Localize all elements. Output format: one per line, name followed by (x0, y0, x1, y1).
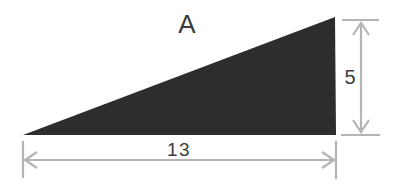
height-value-label: 5 (344, 66, 355, 88)
figure-label: A (178, 9, 196, 39)
base-value-label: 13 (167, 139, 191, 160)
triangle-diagram: A 13 5 (0, 0, 402, 194)
right-triangle-figure: A 13 5 (0, 0, 402, 194)
